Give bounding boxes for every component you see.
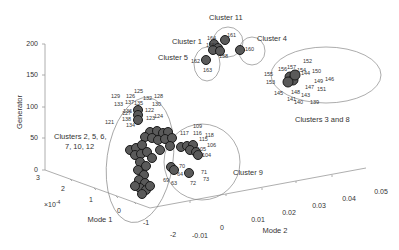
svg-text:73: 73 bbox=[203, 176, 209, 182]
svg-text:0.05: 0.05 bbox=[374, 188, 388, 195]
label-main-clusters-line2: 7, 10, 12 bbox=[65, 142, 94, 151]
svg-text:129: 129 bbox=[111, 93, 120, 99]
mode1-exponent-label: ×10-4 bbox=[44, 199, 61, 208]
svg-text:0: 0 bbox=[220, 224, 224, 231]
svg-text:150: 150 bbox=[312, 68, 321, 74]
svg-text:69: 69 bbox=[163, 177, 169, 183]
svg-text:2: 2 bbox=[61, 185, 65, 192]
svg-text:161: 161 bbox=[227, 32, 236, 38]
svg-text:140: 140 bbox=[294, 99, 303, 105]
svg-text:134: 134 bbox=[126, 122, 135, 128]
svg-text:158: 158 bbox=[219, 53, 228, 59]
mode2-axis-label: Mode 2 bbox=[262, 226, 287, 235]
svg-text:156: 156 bbox=[278, 66, 287, 72]
svg-text:-2: -2 bbox=[170, 231, 176, 238]
svg-text:147: 147 bbox=[305, 84, 314, 90]
svg-text:153: 153 bbox=[266, 79, 275, 85]
svg-text:148: 148 bbox=[291, 89, 300, 95]
svg-text:0.04: 0.04 bbox=[342, 195, 356, 202]
svg-text:0.03: 0.03 bbox=[312, 202, 326, 209]
svg-text:100: 100 bbox=[26, 103, 38, 110]
svg-text:70: 70 bbox=[179, 163, 185, 169]
svg-text:0: 0 bbox=[34, 166, 38, 173]
svg-text:63: 63 bbox=[171, 180, 177, 186]
svg-text:137: 137 bbox=[125, 99, 134, 105]
svg-text:150: 150 bbox=[26, 71, 38, 78]
svg-text:151: 151 bbox=[317, 86, 326, 92]
svg-text:109: 109 bbox=[193, 123, 202, 129]
mode1-axis-label: Mode 1 bbox=[87, 215, 112, 224]
svg-text:50: 50 bbox=[30, 134, 38, 141]
svg-text:128: 128 bbox=[154, 93, 163, 99]
svg-text:135: 135 bbox=[134, 100, 143, 106]
svg-text:149: 149 bbox=[314, 78, 323, 84]
svg-text:117: 117 bbox=[180, 130, 189, 136]
svg-text:64: 64 bbox=[177, 171, 183, 177]
svg-text:104: 104 bbox=[202, 152, 211, 158]
svg-text:136: 136 bbox=[123, 108, 132, 114]
svg-text:106: 106 bbox=[207, 142, 216, 148]
svg-text:163: 163 bbox=[203, 67, 212, 73]
svg-text:71: 71 bbox=[201, 169, 207, 175]
svg-text:200: 200 bbox=[26, 40, 38, 47]
svg-text:157: 157 bbox=[287, 64, 296, 70]
label-clusters3-8: Clusters 3 and 8 bbox=[295, 115, 350, 124]
svg-text:72: 72 bbox=[190, 180, 196, 186]
svg-text:162: 162 bbox=[191, 58, 200, 64]
generator-tick-labels: 200 150 100 50 0 bbox=[26, 40, 38, 173]
svg-text:152: 152 bbox=[303, 58, 312, 64]
svg-text:165: 165 bbox=[206, 42, 215, 48]
svg-text:146: 146 bbox=[325, 76, 334, 82]
scatter-3d-plot: 200 150 100 50 0 Generator 3 2 1 0 -1 -2… bbox=[0, 0, 399, 250]
mode1-tick-labels: 3 2 1 0 -1 -2 bbox=[36, 174, 176, 238]
svg-text:145: 145 bbox=[274, 90, 283, 96]
svg-text:0: 0 bbox=[117, 207, 121, 214]
mode2-tick-labels: -0.01 0 0.01 0.02 0.03 0.04 0.05 bbox=[192, 188, 388, 239]
label-cluster11: Cluster 11 bbox=[209, 13, 243, 22]
svg-text:143: 143 bbox=[301, 92, 310, 98]
label-main-clusters-line1: Clusters 2, 5, 6, bbox=[54, 132, 107, 141]
svg-text:3: 3 bbox=[36, 174, 40, 181]
label-cluster9: Cluster 9 bbox=[233, 168, 263, 177]
svg-text:132: 132 bbox=[143, 95, 152, 101]
svg-text:0.01: 0.01 bbox=[251, 216, 265, 223]
svg-text:-0.01: -0.01 bbox=[192, 232, 208, 239]
svg-text:139: 139 bbox=[310, 99, 319, 105]
svg-text:133: 133 bbox=[114, 101, 123, 107]
generator-axis-label: Generator bbox=[15, 95, 24, 129]
svg-text:1: 1 bbox=[89, 196, 93, 203]
svg-text:124: 124 bbox=[154, 113, 163, 119]
label-cluster1: Cluster 1 bbox=[172, 37, 202, 46]
svg-text:144: 144 bbox=[301, 70, 310, 76]
label-cluster4: Cluster 4 bbox=[257, 34, 287, 43]
svg-text:0.02: 0.02 bbox=[282, 209, 296, 216]
svg-text:121: 121 bbox=[105, 119, 114, 125]
svg-text:160: 160 bbox=[245, 46, 254, 52]
svg-text:125: 125 bbox=[134, 88, 143, 94]
svg-text:122: 122 bbox=[145, 107, 154, 113]
svg-text:164: 164 bbox=[207, 35, 216, 41]
svg-text:155: 155 bbox=[264, 71, 273, 77]
label-cluster5: Cluster 5 bbox=[158, 53, 188, 62]
